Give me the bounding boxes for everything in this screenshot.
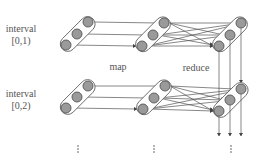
continuation-dots-reduce bbox=[230, 145, 232, 153]
reduce-node bbox=[236, 18, 246, 28]
reduce-node bbox=[225, 95, 235, 105]
continuation-dots-input bbox=[77, 145, 79, 153]
input-node bbox=[83, 17, 93, 27]
input-node bbox=[72, 92, 82, 102]
map-node bbox=[160, 81, 170, 91]
map-node bbox=[149, 93, 159, 103]
row-1-label-range: [0,1) bbox=[11, 35, 30, 47]
continuation-dots-map bbox=[153, 145, 155, 153]
map-node bbox=[138, 104, 148, 114]
input-node bbox=[83, 81, 93, 91]
reduce-node bbox=[214, 41, 224, 51]
reduce-node bbox=[214, 106, 224, 116]
row-1 bbox=[57, 13, 250, 54]
reduce-node bbox=[225, 30, 235, 40]
reduce-label: reduce bbox=[183, 62, 210, 73]
map-node bbox=[137, 41, 147, 51]
row-2-label-interval: interval bbox=[6, 88, 37, 99]
input-node bbox=[72, 29, 82, 39]
input-node bbox=[61, 103, 71, 113]
reduce-node bbox=[236, 84, 246, 94]
mapreduce-interval-diagram: interval [0,1) interval [0,2) map reduce bbox=[0, 0, 259, 165]
row-2-label-range: [0,2) bbox=[11, 100, 30, 112]
row-2 bbox=[57, 76, 251, 120]
input-node bbox=[61, 40, 71, 50]
map-label: map bbox=[109, 61, 126, 72]
map-node bbox=[159, 18, 169, 28]
map-node bbox=[148, 30, 158, 40]
row-1-label-interval: interval bbox=[6, 23, 37, 34]
map-group-row-1 bbox=[132, 14, 173, 55]
